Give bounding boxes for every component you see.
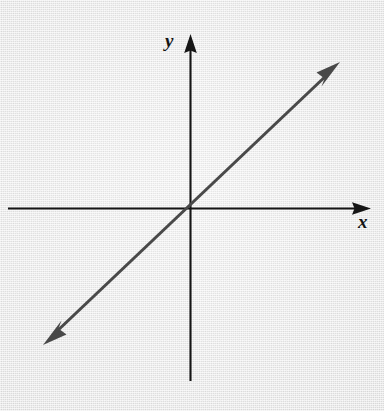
y-axis-arrowhead	[184, 34, 197, 53]
x-axis-label: x	[358, 212, 368, 231]
y-axis-label: y	[165, 31, 173, 50]
coordinate-plane	[0, 0, 384, 411]
graph-figure: y x	[0, 0, 384, 411]
